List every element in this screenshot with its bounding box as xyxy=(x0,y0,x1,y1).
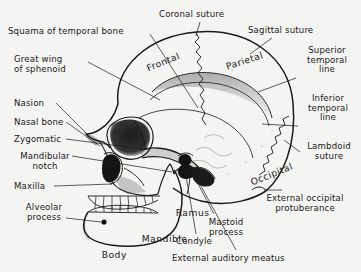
callout-maxilla-text: Maxilla xyxy=(14,181,45,191)
leader-nasal-bone xyxy=(66,122,100,146)
callout-inferior-temporal-line-text: Inferior temporal line xyxy=(308,93,348,122)
callout-condyle-text: Condyle xyxy=(176,236,212,246)
callout-coronal-suture-text: Coronal suture xyxy=(159,9,224,19)
callout-maxilla: Maxilla xyxy=(14,182,45,192)
coronoid-process xyxy=(164,164,174,176)
callout-sagittal-suture-text: Sagittal suture xyxy=(248,25,313,35)
temporal-squama-shade xyxy=(152,73,272,118)
external-auditory-meatus-opening xyxy=(179,154,192,166)
callout-external-occipital-protuberance: External occipital protuberance xyxy=(252,194,358,213)
callout-mandibular-notch-text: Mandibular notch xyxy=(20,151,70,171)
callout-external-occipital-protuberance-text: External occipital protuberance xyxy=(266,193,343,213)
callout-superior-temporal-line-text: Superior temporal line xyxy=(307,45,347,74)
callout-mastoid-process: Mastoid process xyxy=(200,218,252,237)
callout-lambdoid-suture: Lambdoid suture xyxy=(300,142,358,161)
callout-great-wing-of-sphenoid: Great wing of sphenoid xyxy=(14,55,66,74)
bone-label-parietal-text: Parietal xyxy=(224,49,264,71)
callout-sagittal-suture: Sagittal suture xyxy=(248,26,313,36)
bone-label-frontal-text: Frontal xyxy=(145,50,181,73)
skull-diagram-figure: Frontal Parietal Occipital Ramus Mandibl… xyxy=(0,0,361,272)
bone-label-body: Body xyxy=(88,238,127,271)
callout-nasal-bone: Nasal bone xyxy=(14,118,64,128)
callout-condyle: Condyle xyxy=(176,237,212,247)
callout-external-auditory-meatus: External auditory meatus xyxy=(172,254,285,264)
ramus-anterior xyxy=(158,176,164,194)
callout-coronal-suture: Coronal suture xyxy=(159,10,224,20)
callout-mastoid-process-text: Mastoid process xyxy=(209,217,244,237)
callout-squama-of-temporal-bone: Squama of temporal bone xyxy=(8,27,124,37)
callout-great-wing-of-sphenoid-text: Great wing of sphenoid xyxy=(14,54,66,74)
callout-superior-temporal-line: Superior temporal line xyxy=(298,46,356,75)
callout-external-auditory-meatus-text: External auditory meatus xyxy=(172,253,285,263)
callout-inferior-temporal-line: Inferior temporal line xyxy=(300,94,356,123)
callout-lambdoid-suture-text: Lambdoid suture xyxy=(307,141,351,161)
bone-label-ramus-text: Ramus xyxy=(176,207,210,218)
bone-label-body-text: Body xyxy=(102,249,127,260)
bone-label-occipital-text: Occipital xyxy=(249,160,294,187)
callout-alveolar-process: Alveolar process xyxy=(14,203,74,222)
canine-fossa-shade xyxy=(116,176,146,194)
leader-inferior-temporal-line xyxy=(262,124,298,126)
callout-squama-of-temporal-bone-text: Squama of temporal bone xyxy=(8,26,124,36)
callout-nasion: Nasion xyxy=(14,99,44,109)
mastoid-process-shape xyxy=(191,167,214,186)
callout-nasal-bone-text: Nasal bone xyxy=(14,117,64,127)
callout-alveolar-process-text: Alveolar process xyxy=(26,202,62,222)
callout-mandibular-notch: Mandibular notch xyxy=(14,152,76,171)
callout-nasion-text: Nasion xyxy=(14,98,44,108)
chin-shade xyxy=(82,218,92,240)
callout-zygomatic: Zygomatic xyxy=(14,135,61,145)
leader-coronal-suture xyxy=(196,22,200,36)
leader-maxilla xyxy=(54,184,112,186)
callout-zygomatic-text: Zygomatic xyxy=(14,134,61,144)
alveolar-process-marker xyxy=(101,219,106,224)
